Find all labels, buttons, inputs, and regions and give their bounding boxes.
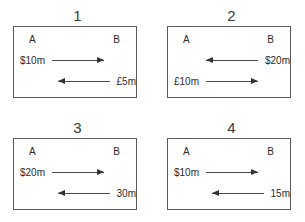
panel-2-flow-1-label: $20m bbox=[265, 53, 290, 68]
panel-3: 3 A B $20m 30m bbox=[8, 118, 145, 212]
panel-4-flow-1-label: $10m bbox=[174, 165, 199, 180]
panel-1-agents: A B bbox=[14, 32, 136, 48]
panel-2-agent-b-label: B bbox=[267, 32, 274, 48]
panel-1-agent-b-label: B bbox=[113, 32, 120, 48]
panel-2-title: 2 bbox=[167, 6, 296, 26]
arrow-left-icon bbox=[206, 56, 258, 65]
panel-3-title: 3 bbox=[13, 118, 142, 138]
panel-2-flow-2: £10m bbox=[168, 74, 296, 89]
panel-4-box: A B $10m 15m bbox=[167, 138, 291, 210]
diagram-grid: 1 A B $10m £5m 2 A bbox=[0, 0, 305, 222]
panel-1-flow-2: £5m bbox=[14, 74, 142, 89]
panel-1-flow-2-label: £5m bbox=[117, 74, 136, 89]
panel-1-flow-1-label: $10m bbox=[20, 53, 45, 68]
panel-4-flow-2: 15m bbox=[168, 186, 296, 201]
panel-2-box: A B $20m £10m bbox=[167, 26, 291, 98]
panel-4-flow-1: $10m bbox=[168, 165, 296, 180]
panel-2: 2 A B $20m £10m bbox=[162, 6, 299, 100]
arrow-left-icon bbox=[58, 189, 110, 198]
panel-1-box: A B $10m £5m bbox=[13, 26, 137, 98]
panel-2-agent-a-label: A bbox=[183, 32, 190, 48]
arrow-left-icon bbox=[58, 77, 110, 86]
arrow-left-icon bbox=[212, 189, 264, 198]
panel-4-agent-b-label: B bbox=[267, 144, 274, 160]
panel-3-agent-b-label: B bbox=[113, 144, 120, 160]
panel-2-agents: A B bbox=[168, 32, 290, 48]
panel-2-flow-2-label: £10m bbox=[174, 74, 199, 89]
panel-3-agent-a-label: A bbox=[29, 144, 36, 160]
panel-3-box: A B $20m 30m bbox=[13, 138, 137, 210]
arrow-right-icon bbox=[206, 77, 258, 86]
panel-3-agents: A B bbox=[14, 144, 136, 160]
panel-1-title: 1 bbox=[13, 6, 142, 26]
panel-1-agent-a-label: A bbox=[29, 32, 36, 48]
arrow-right-icon bbox=[52, 56, 104, 65]
panel-2-flow-1: $20m bbox=[168, 53, 296, 68]
panel-4: 4 A B $10m 15m bbox=[162, 118, 299, 212]
panel-3-flow-2-label: 30m bbox=[117, 186, 136, 201]
panel-4-title: 4 bbox=[167, 118, 296, 138]
panel-4-agents: A B bbox=[168, 144, 290, 160]
panel-1: 1 A B $10m £5m bbox=[8, 6, 145, 100]
panel-4-agent-a-label: A bbox=[183, 144, 190, 160]
panel-1-flow-1: $10m bbox=[14, 53, 142, 68]
arrow-right-icon bbox=[52, 168, 104, 177]
panel-3-flow-1-label: $20m bbox=[20, 165, 45, 180]
arrow-right-icon bbox=[206, 168, 258, 177]
panel-3-flow-1: $20m bbox=[14, 165, 142, 180]
panel-4-flow-2-label: 15m bbox=[271, 186, 290, 201]
panel-3-flow-2: 30m bbox=[14, 186, 142, 201]
